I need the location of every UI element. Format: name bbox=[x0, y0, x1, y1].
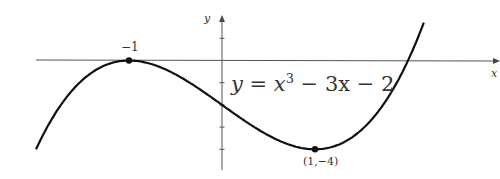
y-axis-arrow-icon bbox=[219, 15, 225, 22]
y-axis-label: y bbox=[204, 12, 210, 25]
equation-lhs: y = bbox=[231, 72, 274, 96]
point-marker bbox=[312, 146, 318, 152]
x-axis-label: x bbox=[491, 67, 497, 80]
equation-exponent: 3 bbox=[286, 71, 294, 86]
equation-rest: − 3x − 2 bbox=[294, 72, 394, 96]
equation-label: y = x3 − 3x − 2 bbox=[231, 71, 394, 96]
point-max-label: −1 bbox=[121, 40, 139, 54]
chart: y x −1 (1,−4) y = x3 − 3x − 2 bbox=[0, 0, 500, 179]
x-axis-arrow-icon bbox=[493, 58, 500, 64]
x-axis bbox=[36, 60, 496, 61]
point-min-label: (1,−4) bbox=[303, 155, 338, 168]
point-marker bbox=[126, 57, 132, 63]
equation-x: x bbox=[274, 72, 286, 96]
